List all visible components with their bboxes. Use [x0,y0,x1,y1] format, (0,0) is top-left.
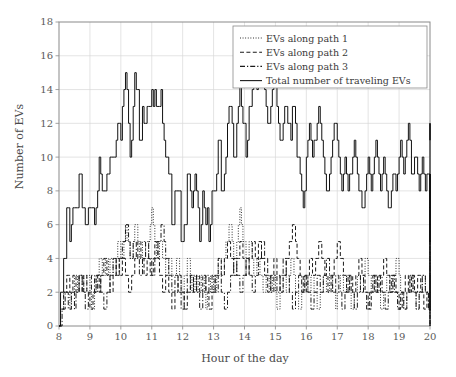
svg-text:14: 14 [40,84,53,95]
svg-text:20: 20 [424,331,437,342]
svg-text:10: 10 [40,152,53,163]
svg-text:18: 18 [40,16,53,27]
chart-legend: EVs along path 1EVs along path 2EVs alon… [233,26,427,88]
legend-label-1: EVs along path 1 [266,33,348,44]
svg-text:4: 4 [47,253,53,264]
svg-text:16: 16 [40,50,53,61]
svg-text:12: 12 [40,118,53,129]
legend-label-2: EVs along path 2 [266,47,348,58]
svg-text:18: 18 [362,331,375,342]
svg-text:9: 9 [87,331,93,342]
legend-label-4: Total number of traveling EVs [266,75,411,86]
svg-text:12: 12 [176,331,189,342]
svg-text:14: 14 [238,331,251,342]
svg-text:8: 8 [47,185,53,196]
svg-text:17: 17 [331,331,344,342]
svg-text:13: 13 [207,331,220,342]
svg-text:11: 11 [145,331,158,342]
y-axis-ticks: 024681012141618 [40,16,59,331]
svg-text:0: 0 [47,320,53,331]
svg-text:10: 10 [114,331,127,342]
x-axis-ticks: 891011121314151617181920 [56,326,437,342]
svg-text:19: 19 [393,331,406,342]
legend-label-3: EVs along path 3 [266,61,348,72]
chart-figure: Number of EVs Hour of the day 0246810121… [0,0,456,377]
svg-text:16: 16 [300,331,313,342]
svg-text:2: 2 [47,287,53,298]
svg-text:6: 6 [47,219,53,230]
plot-area: 024681012141618 891011121314151617181920… [0,0,456,377]
svg-text:8: 8 [56,331,62,342]
svg-text:15: 15 [269,331,282,342]
